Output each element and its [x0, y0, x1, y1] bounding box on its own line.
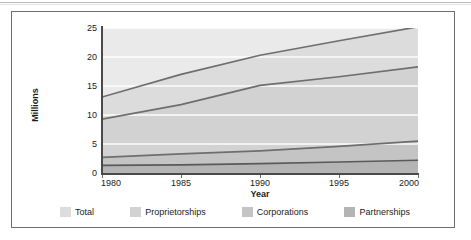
- x-axis-tick-label: 1995: [329, 178, 349, 188]
- legend-swatch-icon: [242, 207, 253, 217]
- y-axis-tick-label: 25: [87, 23, 97, 33]
- y-axis-tick-label: 20: [87, 52, 97, 62]
- legend-item-label: Corporations: [257, 207, 309, 217]
- x-axis-tick-labels: 19801985199019952000: [102, 175, 418, 189]
- legend-swatch-icon: [60, 207, 71, 217]
- chart-legend: TotalProprietorshipsCorporationsPartners…: [60, 204, 410, 220]
- area-chart-svg: [102, 28, 418, 173]
- legend-swatch-icon: [130, 207, 141, 217]
- chart-plot-area: [102, 28, 418, 173]
- legend-item-proprietorships[interactable]: Proprietorships: [130, 207, 206, 217]
- y-axis-title: Millions: [30, 60, 40, 150]
- page-top-rule: [0, 2, 471, 3]
- x-axis-tick-label: 1985: [171, 178, 191, 188]
- x-axis-tick-label: 1980: [101, 178, 121, 188]
- figure-container: Millions 0510152025 19801985199019952000…: [11, 11, 455, 228]
- legend-item-partnerships[interactable]: Partnerships: [344, 207, 410, 217]
- legend-item-total[interactable]: Total: [60, 207, 94, 217]
- y-axis-tick-labels: 0510152025: [74, 22, 100, 174]
- y-axis-tick-label: 15: [87, 81, 97, 91]
- legend-item-label: Proprietorships: [145, 207, 206, 217]
- page-top-rule-secondary: [0, 4, 471, 5]
- x-axis-tick-label: 1990: [250, 178, 270, 188]
- y-axis-tick-label: 5: [92, 139, 97, 149]
- legend-item-label: Partnerships: [359, 207, 410, 217]
- y-axis-tick-label: 0: [92, 168, 97, 178]
- y-axis-tick-label: 10: [87, 110, 97, 120]
- legend-swatch-icon: [344, 207, 355, 217]
- legend-item-label: Total: [75, 207, 94, 217]
- chart-plot-wrapper: Millions 0510152025 19801985199019952000…: [12, 12, 456, 229]
- x-axis-title: Year: [102, 189, 418, 199]
- x-axis-tick-label: 2000: [399, 178, 419, 188]
- y-axis-line: [101, 26, 103, 175]
- legend-item-corporations[interactable]: Corporations: [242, 207, 309, 217]
